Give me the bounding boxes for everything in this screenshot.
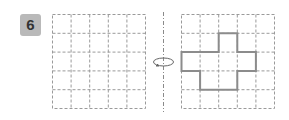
figure [0, 0, 289, 120]
right-grid[interactable] [182, 15, 275, 109]
left-grid[interactable] [53, 15, 146, 109]
